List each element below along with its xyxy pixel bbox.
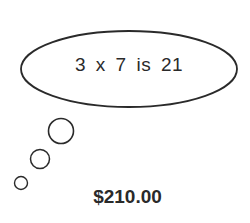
thought-bubble-text: 3 x 7 is 21 <box>20 54 238 76</box>
thought-trail-circle-medium <box>31 150 50 169</box>
price-label: $210.00 <box>80 186 175 208</box>
thought-trail-circle-small <box>15 177 28 190</box>
thought-trail-circle-large <box>49 119 74 144</box>
